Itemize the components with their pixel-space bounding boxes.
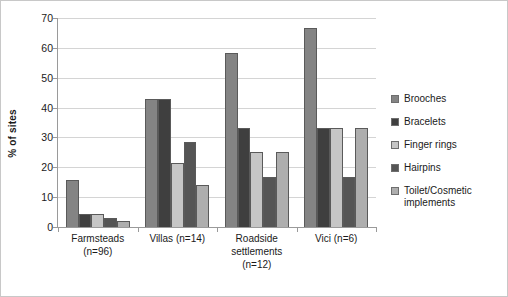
legend-item-label-line: implements: [404, 197, 472, 209]
legend-item-label: Hairpins: [404, 162, 441, 174]
legend-item-label: Toilet/Cosmeticimplements: [404, 185, 472, 209]
y-tick-label: 70: [7, 12, 53, 24]
legend-item[interactable]: Hairpins: [391, 162, 506, 174]
bar: [171, 163, 184, 227]
y-tick-label: 20: [7, 161, 53, 173]
bar: [104, 218, 117, 227]
x-axis-label-line: (n=12): [217, 258, 297, 271]
legend-item-label-line: Bracelets: [404, 116, 446, 128]
bar: [238, 128, 251, 227]
legend-item[interactable]: Toilet/Cosmeticimplements: [391, 185, 506, 209]
x-axis-label: Villas (n=14): [138, 232, 218, 271]
bar: [184, 142, 197, 227]
bar: [196, 185, 209, 227]
x-axis-label-line: (n=96): [58, 245, 138, 258]
legend-item-label-line: Brooches: [404, 93, 446, 105]
x-axis-label-line: Farmsteads: [58, 232, 138, 245]
bar: [117, 221, 130, 227]
bar-chart: % of sites 010203040506070 Farmsteads(n=…: [0, 0, 508, 297]
legend-item-label: Finger rings: [404, 139, 457, 151]
x-axis-label-line: settlements: [217, 245, 297, 258]
bar-group: [58, 18, 138, 227]
legend-item[interactable]: Finger rings: [391, 139, 506, 151]
legend-item[interactable]: Brooches: [391, 93, 506, 105]
bar: [355, 128, 368, 227]
legend-swatch-icon: [391, 164, 399, 172]
x-axis-label-line: Vici (n=6): [297, 232, 377, 245]
bar: [158, 99, 171, 227]
legend-item-label-line: Finger rings: [404, 139, 457, 151]
y-tick-label: 0: [7, 221, 53, 233]
legend-swatch-icon: [391, 95, 399, 103]
bar: [250, 152, 263, 227]
x-axis-labels: Farmsteads(n=96)Villas (n=14)Roadsideset…: [58, 232, 376, 271]
x-axis-label-line: Roadside: [217, 232, 297, 245]
legend-item-label: Bracelets: [404, 116, 446, 128]
legend-item-label-line: Hairpins: [404, 162, 441, 174]
plot-area: [58, 18, 376, 227]
y-tick-label: 50: [7, 72, 53, 84]
legend-item-label: Brooches: [404, 93, 446, 105]
bar: [317, 128, 330, 227]
bar: [330, 128, 343, 227]
bar-group: [217, 18, 297, 227]
bar: [66, 180, 79, 227]
x-axis-label: Vici (n=6): [297, 232, 377, 271]
bar: [91, 214, 104, 227]
y-tick-label: 40: [7, 102, 53, 114]
legend-item-label-line: Toilet/Cosmetic: [404, 185, 472, 197]
bar-group: [297, 18, 377, 227]
bar: [343, 177, 356, 227]
y-tick-label: 60: [7, 42, 53, 54]
legend-swatch-icon: [391, 141, 399, 149]
chart-legend: BroochesBraceletsFinger ringsHairpinsToi…: [391, 93, 506, 220]
bar: [79, 214, 92, 227]
bar-group-inner: [145, 18, 209, 227]
bars-layer: [58, 18, 376, 227]
bar: [145, 99, 158, 227]
y-axis-ticks: 010203040506070: [1, 18, 53, 228]
legend-item[interactable]: Bracelets: [391, 116, 506, 128]
bar-group: [138, 18, 218, 227]
bar: [225, 53, 238, 227]
bar: [276, 152, 289, 227]
bar-group-inner: [304, 18, 368, 227]
y-tick-label: 10: [7, 191, 53, 203]
legend-swatch-icon: [391, 187, 399, 195]
bar-group-inner: [66, 18, 130, 227]
x-axis-label-line: Villas (n=14): [138, 232, 218, 245]
legend-swatch-icon: [391, 118, 399, 126]
x-axis-label: Farmsteads(n=96): [58, 232, 138, 271]
bar: [304, 28, 317, 227]
bar: [263, 177, 276, 227]
y-tick-label: 30: [7, 131, 53, 143]
bar-group-inner: [225, 18, 289, 227]
x-tick-mark: [376, 227, 377, 232]
x-axis-label: Roadsidesettlements(n=12): [217, 232, 297, 271]
